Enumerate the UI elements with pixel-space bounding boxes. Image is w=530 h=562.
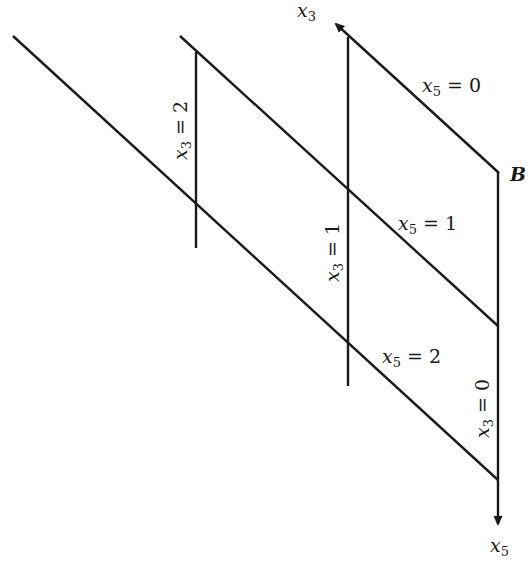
label-x3-eq-1: x3= 1 — [321, 223, 346, 282]
axis-label-x5: x5 — [490, 534, 509, 559]
label-x3-eq-2: x3= 2 — [169, 101, 194, 160]
label-x5-eq-2: x5= 2 — [382, 345, 441, 370]
axis-label-x3: x3 — [297, 0, 316, 24]
point-label-b: B — [509, 163, 526, 185]
line-x5-0 — [336, 24, 499, 173]
constraint-lattice-diagram: x3 x5 B x5= 0 x5= 1 x5= 2 x3= 2 x3= 1 x3… — [0, 0, 530, 562]
label-x3-eq-0: x3= 0 — [471, 379, 496, 438]
line-x5-2 — [13, 36, 498, 480]
label-x5-eq-1: x5= 1 — [398, 212, 457, 237]
label-x5-eq-0: x5= 0 — [422, 74, 481, 99]
